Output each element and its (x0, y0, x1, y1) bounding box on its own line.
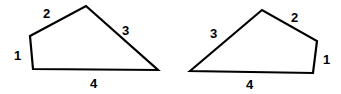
right-side-label-2: 2 (291, 10, 298, 25)
left-side-label-2: 2 (43, 6, 50, 21)
diagram-canvas: 1 2 3 4 3 2 1 4 (0, 0, 341, 94)
left-side-label-1: 1 (14, 48, 21, 63)
right-side-label-3: 3 (210, 26, 217, 41)
diagram-svg: 1 2 3 4 3 2 1 4 (0, 0, 341, 94)
right-side-label-1: 1 (323, 52, 330, 67)
right-side-label-4: 4 (246, 77, 254, 92)
left-side-label-4: 4 (90, 76, 98, 91)
left-side-label-3: 3 (122, 23, 129, 38)
